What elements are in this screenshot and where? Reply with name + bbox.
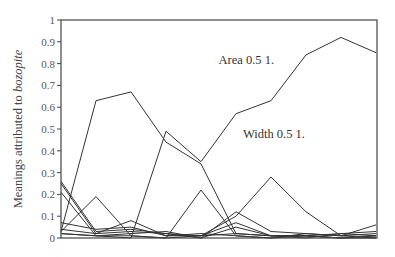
- y-tick-label: 0.7: [41, 79, 55, 91]
- line-chart: 00.10.20.30.40.50.60.70.80.91 Meanings a…: [0, 0, 395, 257]
- y-tick-label: 0.1: [41, 210, 55, 222]
- y-tick-label: 0.3: [41, 167, 55, 179]
- annotation-area: Area 0.5 1.: [219, 53, 275, 67]
- y-tick-label: 1: [50, 14, 56, 26]
- y-tick-label: 0.9: [41, 36, 55, 48]
- y-tick-label: 0.6: [41, 101, 55, 113]
- y-axis-label-italic: bozopite: [11, 49, 25, 92]
- y-tick-label: 0.8: [41, 58, 55, 70]
- series-lines: [61, 37, 376, 238]
- annotation-width: Width 0.5 1.: [243, 127, 305, 141]
- series-line-hump: [61, 92, 376, 238]
- y-tick-label: 0.2: [41, 188, 55, 200]
- y-axis-ticks: 00.10.20.30.40.50.60.70.80.91: [41, 14, 61, 244]
- y-tick-label: 0.4: [41, 145, 55, 157]
- y-axis-label-main: Meanings attributed to: [11, 92, 25, 208]
- series-line-area: [61, 37, 376, 238]
- y-tick-label: 0: [50, 232, 56, 244]
- y-tick-label: 0.5: [41, 123, 55, 135]
- y-axis-label: Meanings attributed to bozopite: [11, 49, 25, 208]
